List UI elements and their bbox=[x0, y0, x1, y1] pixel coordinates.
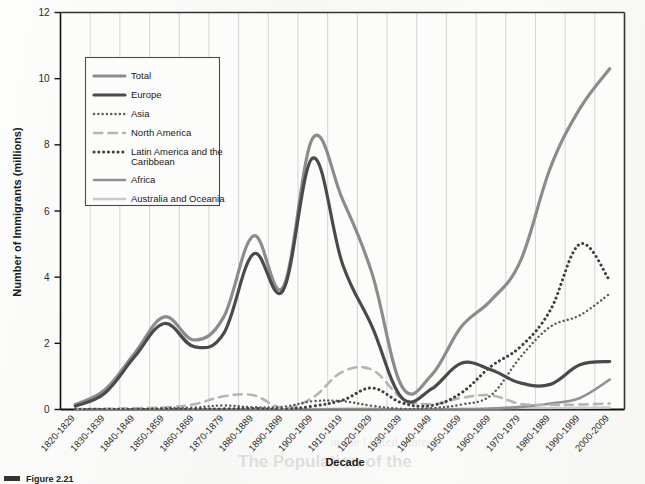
y-tick-label: 4 bbox=[44, 272, 50, 283]
y-tick-label: 2 bbox=[44, 338, 50, 349]
legend-label: Caribbean bbox=[131, 156, 175, 167]
y-tick-label: 6 bbox=[44, 206, 50, 217]
x-axis-title: Decade bbox=[325, 456, 364, 468]
legend-label: Total bbox=[131, 70, 151, 81]
legend-label: Asia bbox=[131, 108, 150, 119]
legend-label: Europe bbox=[131, 89, 162, 100]
figure-root: The Population of the in the United Stat… bbox=[0, 0, 645, 484]
y-tick-label: 8 bbox=[44, 139, 50, 150]
immigration-line-chart: 024681012 1820-18291830-18391840-1849185… bbox=[0, 0, 645, 484]
y-tick-label: 0 bbox=[44, 404, 50, 415]
legend-label: Australia and Oceania bbox=[131, 193, 225, 204]
caption-marker-bar bbox=[4, 476, 20, 481]
y-tick-label: 12 bbox=[38, 7, 50, 18]
figure-caption-label: Figure 2.21 bbox=[26, 474, 74, 484]
legend-label: Africa bbox=[131, 174, 156, 185]
y-tick-label: 10 bbox=[38, 73, 50, 84]
y-axis-ticks: 024681012 bbox=[38, 7, 60, 415]
x-axis-tick-labels: 1820-18291830-18391840-18491850-18591860… bbox=[38, 412, 611, 453]
chart-legend: TotalEuropeAsiaNorth AmericaLatin Americ… bbox=[86, 58, 226, 206]
y-axis-title: Number of Immigrants (millions) bbox=[11, 127, 23, 297]
legend-label: North America bbox=[131, 127, 192, 138]
